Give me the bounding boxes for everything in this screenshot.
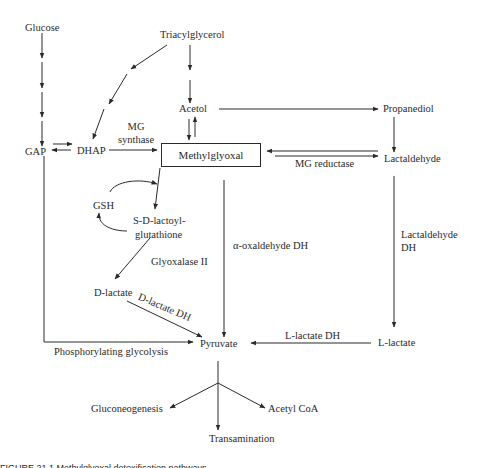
node-d-lactate: D-lactate [94,287,132,299]
enzyme-l-lactate-dh: L-lactate DH [285,330,340,342]
enzyme-phosphorylating-glycolysis: Phosphorylating glycolysis [54,346,168,358]
node-s-d-lactoyl-line1: S-D-lactoyl- [133,215,186,227]
enzyme-lactaldehyde-dh-line1: Lactaldehyde [401,229,458,241]
node-methylglyoxal: Methylglyoxal [179,149,244,161]
node-acetyl-coa: Acetyl CoA [268,403,318,415]
node-gluconeogenesis: Gluconeogenesis [91,403,163,415]
node-pyruvate: Pyruvate [200,338,237,350]
enzyme-lactaldehyde-dh-line2: DH [401,242,416,254]
node-glucose: Glucose [25,22,59,34]
enzyme-mg-reductase: MG reductase [295,158,354,170]
node-gsh: GSH [93,200,114,212]
enzyme-alpha-oxaldehyde-dh: α-oxaldehyde DH [233,240,308,252]
node-triacylglycerol: Triacylglycerol [160,29,224,41]
node-propanediol: Propanediol [383,103,434,115]
enzyme-mg-synthase-line1: MG [128,121,145,133]
methylglyoxal-pathway-diagram: Glucose Triacylglycerol Acetol Propanedi… [0,0,482,468]
enzyme-glyoxalase-ii: Glyoxalase II [151,256,208,268]
node-dhap: DHAP [77,145,106,157]
node-gap: GAP [25,146,46,158]
node-acetol: Acetol [179,103,207,115]
node-transamination: Transamination [209,433,275,445]
node-methylglyoxal-box: Methylglyoxal [161,143,261,167]
node-l-lactate: L-lactate [378,337,415,349]
node-s-d-lactoyl-line2: glutathione [135,229,182,241]
enzyme-mg-synthase-line2: synthase [118,134,154,146]
figure-caption: FIGURE 21.1 Methylglyoxal detoxification… [0,462,209,468]
node-lactaldehyde: Lactaldehyde [384,153,441,165]
